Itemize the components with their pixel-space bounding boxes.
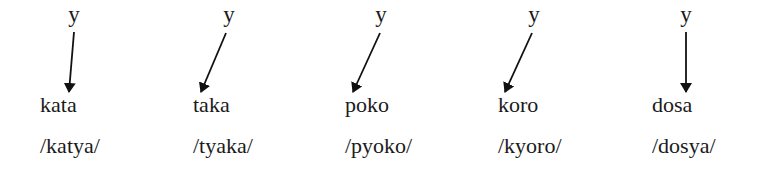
arrow-icon (69, 32, 74, 92)
phonemic-label: /tyaka/ (193, 133, 253, 159)
phonemic-label: /kyoro/ (498, 133, 562, 159)
word-label: kata (40, 92, 77, 118)
glide-label: y (68, 2, 80, 28)
glide-label: y (680, 2, 692, 28)
glide-insertion-diagram: ykata/katya/ytaka/tyaka/ypoko/pyoko/ykor… (0, 0, 765, 169)
arrow-icon (201, 33, 226, 92)
word-label: taka (193, 92, 230, 118)
glide-label: y (528, 2, 540, 28)
word-label: poko (345, 92, 389, 118)
phonemic-label: /pyoko/ (345, 133, 412, 159)
word-label: koro (498, 92, 538, 118)
arrow-icon (505, 33, 532, 92)
word-label: dosa (652, 92, 692, 118)
arrow-icon (353, 33, 380, 92)
phonemic-label: /katya/ (40, 133, 100, 159)
glide-label: y (375, 2, 387, 28)
phonemic-label: /dosya/ (652, 133, 716, 159)
glide-label: y (223, 2, 235, 28)
